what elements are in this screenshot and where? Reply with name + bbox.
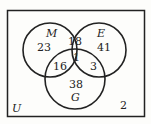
set-g-label: G — [71, 91, 80, 104]
region-m-only: 23 — [37, 41, 51, 54]
region-m-g: 16 — [53, 60, 67, 73]
region-m-e: 18 — [68, 35, 82, 48]
venn-diagram: M E G U 23 41 38 18 16 3 1 2 — [0, 0, 151, 124]
region-e-g: 3 — [90, 60, 97, 73]
region-g-only: 38 — [69, 78, 83, 91]
set-m-label: M — [45, 27, 58, 40]
universe-label: U — [12, 102, 22, 115]
region-m-e-g: 1 — [73, 51, 80, 64]
region-outside: 2 — [120, 99, 127, 112]
set-e-label: E — [96, 27, 105, 40]
region-e-only: 41 — [97, 41, 111, 54]
